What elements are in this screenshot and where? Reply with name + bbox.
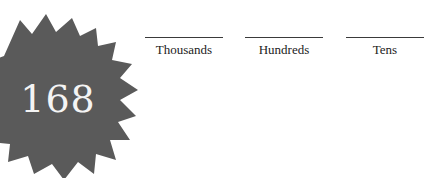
place-value-row: Thousands Hundreds Tens	[0, 0, 404, 60]
place-label-tens: Tens	[346, 42, 424, 58]
place-label-hundreds: Hundreds	[245, 42, 323, 58]
place-label-thousands: Thousands	[145, 42, 223, 58]
place-hundreds: Hundreds	[245, 37, 323, 58]
place-tens: Tens	[346, 37, 424, 58]
place-thousands: Thousands	[145, 37, 223, 58]
answer-blank-tens[interactable]	[346, 37, 424, 38]
answer-blank-hundreds[interactable]	[245, 37, 323, 38]
answer-blank-thousands[interactable]	[145, 37, 223, 38]
badge-number: 168	[16, 80, 100, 118]
